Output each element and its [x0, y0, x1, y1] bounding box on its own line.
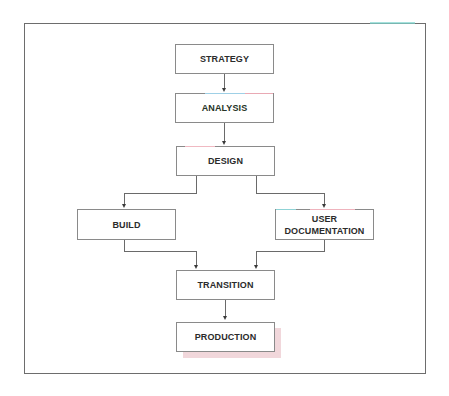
node-production-label: PRODUCTION [195, 331, 257, 343]
node-user-documentation-label-line1: USER [312, 213, 337, 225]
connector-userdoc-transition [256, 251, 325, 252]
node-user-documentation: USER DOCUMENTATION [275, 209, 374, 240]
arrowhead-icon [122, 204, 126, 208]
userdoc-accent [276, 209, 296, 210]
connector-build-transition [196, 251, 197, 265]
node-strategy: STRATEGY [175, 44, 274, 74]
arrowhead-icon [254, 265, 258, 269]
node-strategy-label: STRATEGY [200, 53, 249, 65]
arrowhead-icon [223, 316, 227, 320]
node-transition-label: TRANSITION [198, 279, 254, 291]
design-accent [185, 146, 215, 147]
arrowhead-icon [194, 265, 198, 269]
node-analysis-label: ANALYSIS [202, 102, 247, 114]
connector-strategy-analysis [224, 74, 225, 89]
connector-build-transition [124, 251, 197, 252]
connector-design-build [196, 176, 197, 194]
frame-accent [370, 22, 415, 24]
connector-analysis-design [224, 123, 225, 142]
node-user-documentation-label-line2: DOCUMENTATION [285, 225, 365, 237]
userdoc-accent [310, 209, 355, 210]
arrowhead-icon [222, 141, 226, 145]
node-analysis: ANALYSIS [175, 93, 274, 123]
connector-design-userdoc [256, 193, 325, 194]
connector-transition-production [225, 300, 226, 317]
node-production: PRODUCTION [176, 322, 275, 352]
analysis-accent [205, 93, 245, 94]
connector-design-build [124, 193, 197, 194]
connector-design-userdoc [256, 176, 257, 194]
node-build: BUILD [77, 209, 176, 240]
connector-userdoc-transition [256, 251, 257, 265]
node-design-label: DESIGN [208, 155, 243, 167]
analysis-accent [245, 93, 273, 94]
node-design: DESIGN [176, 146, 275, 176]
arrowhead-icon [222, 88, 226, 92]
node-transition: TRANSITION [176, 270, 275, 300]
arrowhead-icon [322, 204, 326, 208]
node-build-label: BUILD [113, 219, 141, 231]
